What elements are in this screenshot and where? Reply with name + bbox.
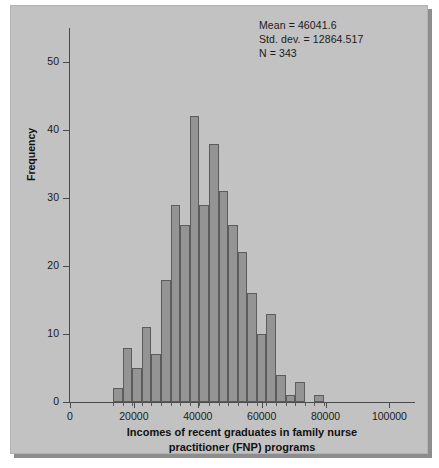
x-axis-minor-tick [266,403,267,406]
histogram-bar [238,252,248,402]
x-axis-tick-label: 60000 [247,410,276,422]
histogram-bar [314,395,324,402]
histogram-bar [276,375,286,402]
x-axis-minor-tick [190,403,191,406]
histogram-bar [266,314,276,402]
x-axis-tick-label: 20000 [119,410,148,422]
x-axis-minor-tick [324,403,325,406]
histogram-bar [171,205,181,402]
y-axis-title: Frequency [25,128,37,181]
x-axis-tick-label: 0 [67,410,73,422]
histogram-bar [151,354,161,402]
y-axis-tick: 30 [63,198,69,199]
x-axis-tick-label: 80000 [311,410,340,422]
y-axis-tick-label: 0 [53,395,59,407]
x-axis-minor-tick [295,403,296,406]
x-axis-minor-tick [257,403,258,406]
x-axis-minor-tick [132,403,133,406]
x-axis-title: Incomes of recent graduates in family nu… [69,425,415,455]
histogram-bar [161,280,171,402]
x-axis-minor-tick [305,403,306,406]
x-axis-minor-tick [142,403,143,406]
x-axis-minor-tick [151,403,152,406]
y-axis-tick: 40 [63,130,69,131]
histogram-bar [257,334,267,402]
x-axis-tick-label: 40000 [183,410,212,422]
x-axis-minor-tick [276,403,277,406]
x-axis-tick [389,403,390,408]
x-axis-minor-tick [247,403,248,406]
x-axis-minor-tick [180,403,181,406]
x-axis-minor-tick [199,403,200,406]
x-axis-minor-tick [209,403,210,406]
histogram-bar [190,116,200,402]
y-axis-tick-label: 40 [47,123,59,135]
y-axis-tick: 10 [63,334,69,335]
x-axis-minor-tick [286,403,287,406]
x-axis-minor-tick [161,403,162,406]
x-axis-title-line1: Incomes of recent graduates in family nu… [69,425,415,440]
y-axis-tick-label: 50 [47,55,59,67]
x-axis-tick [70,403,71,408]
histogram-bar [180,225,190,402]
x-axis-minor-tick [123,403,124,406]
y-axis-tick: 20 [63,266,69,267]
histogram-bar [142,327,152,402]
histogram-bar [286,395,296,402]
x-axis-minor-tick [228,403,229,406]
x-axis-minor-tick [238,403,239,406]
histogram-bar [295,382,305,402]
histogram-bar [113,388,123,402]
x-axis-tick [134,403,135,408]
x-axis-minor-tick [314,403,315,406]
histogram-bar [219,191,229,402]
histogram-bar [228,225,238,402]
y-axis-tick-label: 20 [47,259,59,271]
y-axis-tick-label: 30 [47,191,59,203]
x-axis-minor-tick [219,403,220,406]
x-axis-title-line2: practitioner (FNP) programs [69,440,415,455]
chart-panel: Mean = 46041.6 Std. dev. = 12864.517 N =… [10,5,428,454]
x-axis-line [69,402,415,403]
y-axis-tick: 0 [63,402,69,403]
histogram-bar [123,348,133,402]
x-axis-minor-tick [171,403,172,406]
histogram-screenshot: { "stats": { "mean_line": "Mean = 46041.… [0,0,439,468]
histogram-bar [247,293,257,402]
y-axis-tick-label: 10 [47,327,59,339]
histogram-bar [132,368,142,402]
y-axis-tick: 50 [63,62,69,63]
x-axis-tick [262,403,263,408]
x-axis-minor-tick [113,403,114,406]
histogram-bar [209,144,219,402]
x-axis-tick [326,403,327,408]
histogram-bars [70,28,415,402]
x-axis-tick-label: 100000 [372,410,407,422]
histogram-bar [199,205,209,402]
